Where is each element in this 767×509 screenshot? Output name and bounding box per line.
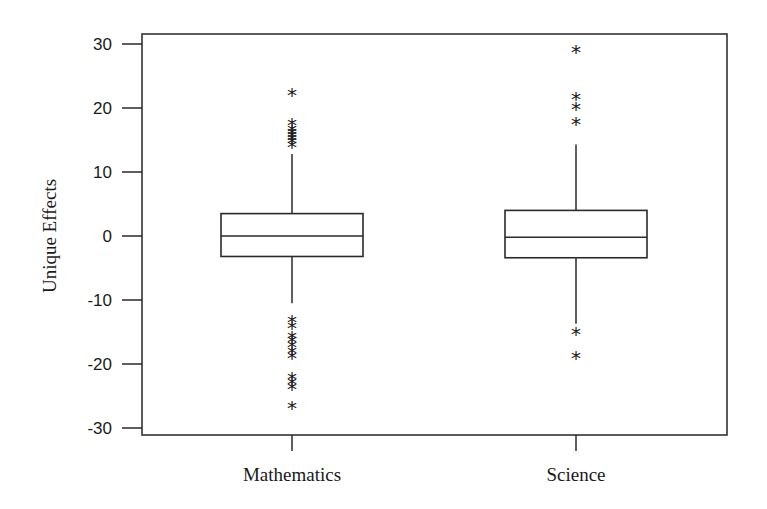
y-tick-label: -20 (87, 355, 112, 374)
y-tick-label: 20 (93, 99, 112, 118)
iqr-box (505, 210, 647, 257)
box-plot-chart: 3020100-10-20-30 MathematicsScience ****… (0, 0, 767, 509)
x-axis: MathematicsScience (243, 435, 606, 485)
y-axis-title: Unique Effects (39, 179, 60, 293)
y-axis: 3020100-10-20-30 (87, 35, 142, 438)
outlier-marker: * (571, 322, 581, 346)
outlier-marker: * (287, 396, 297, 420)
outlier-marker: * (287, 135, 297, 159)
y-tick-label: -10 (87, 291, 112, 310)
iqr-box (221, 214, 363, 257)
outlier-marker: * (571, 346, 581, 370)
outlier-marker: * (287, 83, 297, 107)
outlier-marker: * (571, 112, 581, 136)
box-series: ************************* (221, 40, 647, 420)
y-tick-label: 30 (93, 35, 112, 54)
y-tick-label: 0 (103, 227, 112, 246)
x-category-label: Mathematics (243, 464, 341, 485)
box-science: ****** (505, 40, 647, 369)
box-mathematics: ******************* (221, 83, 363, 420)
y-tick-label: -30 (87, 419, 112, 438)
outlier-marker: * (571, 40, 581, 64)
x-category-label: Science (546, 464, 605, 485)
y-tick-label: 10 (93, 163, 112, 182)
